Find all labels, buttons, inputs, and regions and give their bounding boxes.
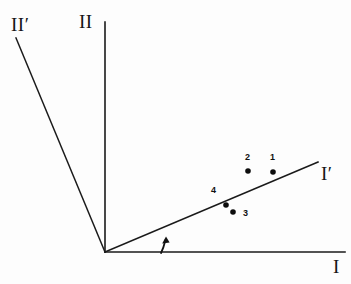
scatter-diagram-figure: II′ II I I′ 1 2 3 4 [0,0,351,284]
axis-label-one: I [333,256,340,278]
point-label-4: 4 [211,185,216,195]
data-point-1 [270,169,276,175]
point-label-1: 1 [270,152,275,162]
point-label-2: 2 [245,152,250,162]
axis-two-prime-line [16,38,105,252]
diagram-canvas [0,0,351,284]
data-point-4 [223,202,229,208]
angle-arrow-icon [161,237,170,254]
axis-label-two: II [79,11,93,33]
data-point-2 [245,168,251,174]
axis-label-two-prime: II′ [11,14,29,36]
axis-label-one-prime: I′ [321,163,332,185]
regression-line [105,162,318,252]
point-label-3: 3 [243,208,248,218]
data-point-3 [230,209,236,215]
